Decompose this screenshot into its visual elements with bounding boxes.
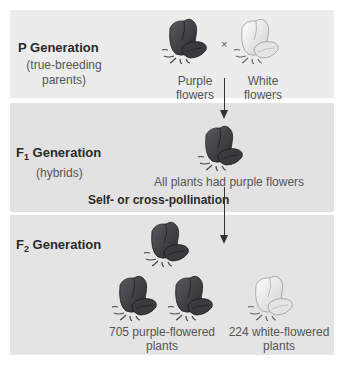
white-flowers-label: White flowers: [238, 74, 288, 102]
f1-generation-panel: F1 Generation (hybrids) All plants had p…: [10, 103, 334, 212]
f1-generation-title: F1 Generation: [16, 145, 101, 162]
f2-white-caption-line2: plants: [224, 339, 334, 353]
purple-flowers-label: Purple flowers: [170, 74, 220, 102]
f2-white-caption: 224 white-flowered plants: [224, 325, 334, 353]
arrow-f1-to-f2-line: [224, 187, 225, 237]
purple-flower-icon: [160, 16, 212, 64]
f2-generation-title: F2 Generation: [16, 237, 101, 254]
purple-flower-icon: [110, 273, 162, 321]
white-flower-icon: [232, 16, 284, 64]
f2-white-caption-line1: 224 white-flowered: [224, 325, 334, 339]
cross-symbol: ×: [221, 38, 227, 50]
p-generation-subtitle: (true-breeding parents): [23, 58, 105, 88]
p-generation-title: P Generation: [18, 40, 99, 55]
f2-purple-caption: 705 purple-flowered plants: [106, 325, 218, 353]
white-label-line2: flowers: [238, 88, 288, 102]
arrow-down-icon: [220, 235, 228, 244]
white-label-line1: White: [238, 74, 288, 88]
f1-generation-subtitle: (hybrids): [36, 166, 83, 181]
purple-label-line2: flowers: [170, 88, 220, 102]
f1-title-suffix: Generation: [29, 145, 101, 160]
f2-purple-caption-line2: plants: [106, 339, 218, 353]
purple-flower-icon: [166, 273, 218, 321]
p-subtitle-line2: parents): [23, 73, 105, 88]
purple-flower-icon: [142, 219, 194, 267]
p-generation-panel: P Generation (true-breeding parents) × P…: [10, 10, 334, 98]
f2-purple-caption-line1: 705 purple-flowered: [106, 325, 218, 339]
f1-caption: All plants had purple flowers: [154, 175, 304, 189]
f2-generation-panel: F2 Generation 705 purple-flowered plants…: [10, 215, 334, 355]
arrow-p-to-f1-line: [224, 78, 225, 112]
arrow-down-icon: [220, 110, 228, 119]
f2-title-prefix: F: [16, 237, 24, 252]
f1-title-prefix: F: [16, 145, 24, 160]
white-flower-icon: [246, 273, 298, 321]
pollination-label: Self- or cross-pollination: [88, 193, 229, 207]
f2-title-suffix: Generation: [29, 237, 101, 252]
purple-flower-icon: [196, 123, 248, 171]
p-subtitle-line1: (true-breeding: [23, 58, 105, 73]
purple-label-line1: Purple: [170, 74, 220, 88]
